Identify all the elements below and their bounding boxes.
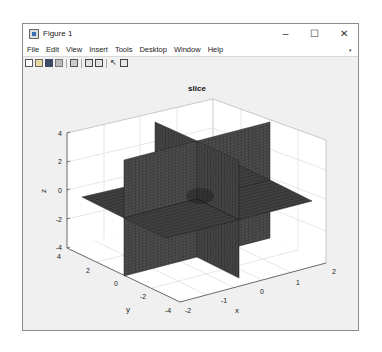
svg-text:0: 0 bbox=[260, 288, 264, 295]
svg-text:2: 2 bbox=[86, 267, 90, 274]
svg-text:-2: -2 bbox=[56, 216, 62, 223]
x-axis-label: x bbox=[235, 306, 239, 315]
svg-text:-2: -2 bbox=[140, 293, 146, 300]
svg-text:0: 0 bbox=[58, 187, 62, 194]
svg-text:-2: -2 bbox=[185, 307, 191, 314]
svg-text:1: 1 bbox=[296, 279, 300, 286]
z-axis-label: z bbox=[39, 189, 48, 193]
slice-plot: slice bbox=[0, 0, 382, 352]
svg-text:-4: -4 bbox=[56, 244, 62, 251]
svg-text:4: 4 bbox=[57, 253, 61, 260]
svg-text:2: 2 bbox=[58, 158, 62, 165]
svg-text:0: 0 bbox=[114, 280, 118, 287]
z-axis-ticks: 4 2 0 -2 -4 z bbox=[39, 130, 70, 251]
plot-title: slice bbox=[188, 84, 206, 93]
svg-text:-1: -1 bbox=[221, 297, 227, 304]
svg-text:-4: -4 bbox=[165, 307, 171, 314]
y-axis-label: y bbox=[126, 305, 130, 314]
svg-text:2: 2 bbox=[332, 268, 336, 275]
svg-text:4: 4 bbox=[58, 130, 62, 137]
